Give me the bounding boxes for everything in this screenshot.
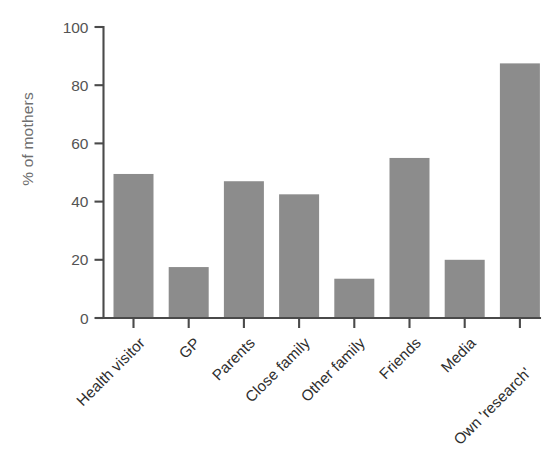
bars-group: [114, 63, 540, 318]
bar-media[interactable]: [445, 260, 485, 318]
y-tick-label: 100: [63, 19, 89, 36]
y-tick-label: 60: [71, 135, 89, 152]
bar-close-family[interactable]: [279, 194, 319, 318]
bar-gp[interactable]: [169, 267, 209, 318]
y-tick-group: 020406080100: [63, 19, 104, 327]
y-tick-label: 40: [71, 193, 89, 210]
y-tick-label: 80: [71, 77, 89, 94]
y-tick-label: 20: [71, 251, 89, 268]
bar-own-research[interactable]: [500, 63, 540, 318]
bar-other-family[interactable]: [334, 279, 374, 318]
bar-chart: % of mothers 020406080100 Health visitor…: [0, 0, 543, 449]
bar-health-visitor[interactable]: [114, 174, 154, 318]
bar-friends[interactable]: [390, 158, 430, 318]
y-tick-label: 0: [80, 310, 89, 327]
x-tick-group: [134, 318, 520, 328]
bar-parents[interactable]: [224, 181, 264, 318]
